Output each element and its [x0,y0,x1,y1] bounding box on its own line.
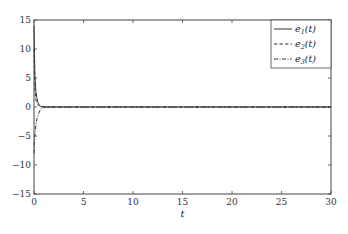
y-tick-label: 0 [25,102,31,112]
y-tick-label: 15 [20,15,32,25]
y-tick-label: −5 [18,131,32,141]
x-tick-label: 0 [31,197,37,207]
chart: −15−10−5051015 051015202530 e1(t) e2(t) … [0,0,348,234]
x-axis-label: t [180,208,185,219]
x-tick-label: 15 [177,197,189,207]
series-line-3 [34,107,331,153]
legend: e1(t) e2(t) e3(t) [271,20,331,68]
x-tick-label: 30 [325,197,337,207]
x-tick-label: 10 [127,197,139,207]
y-tick-label: 10 [20,44,32,54]
x-tick-label: 20 [226,197,238,207]
x-tick-label: 5 [81,197,87,207]
x-tick-label: 25 [276,197,288,207]
y-tick-label: −10 [12,160,31,170]
y-tick-label: −15 [12,189,31,199]
y-tick-label: 5 [25,73,31,83]
